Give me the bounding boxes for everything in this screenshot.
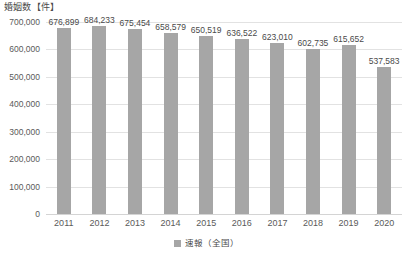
y-axis-tick-label: 300,000 <box>9 127 40 137</box>
bar-group: 636,522 <box>224 22 260 214</box>
gridline <box>46 214 402 215</box>
x-axis-tick-label: 2020 <box>374 217 394 229</box>
bar-group: 684,233 <box>82 22 118 214</box>
bar[interactable] <box>306 49 320 214</box>
bar-value-label: 623,010 <box>262 32 293 42</box>
bar-group: 675,454 <box>117 22 153 214</box>
bar[interactable] <box>377 67 391 214</box>
bar-group: 658,579 <box>153 22 189 214</box>
y-axis-tick-label: 200,000 <box>9 154 40 164</box>
x-axis: 2011201220132014201520162017201820192020 <box>46 217 402 231</box>
bar[interactable] <box>128 29 142 214</box>
x-axis-tick-label: 2011 <box>54 217 73 229</box>
legend-square-marker <box>174 240 181 247</box>
y-axis-tick-label: 600,000 <box>9 44 40 54</box>
bar-value-label: 650,519 <box>191 25 222 35</box>
x-axis-tick-label: 2012 <box>89 217 109 229</box>
bar[interactable] <box>164 33 178 214</box>
y-axis-tick-label: 0 <box>35 209 40 219</box>
x-axis-tick-label: 2018 <box>303 217 323 229</box>
x-axis-tick-label: 2017 <box>267 217 287 229</box>
bar-group: 650,519 <box>188 22 224 214</box>
x-axis-tick-label: 2016 <box>232 217 252 229</box>
y-axis-tick-label: 500,000 <box>9 72 40 82</box>
y-axis: 0100,000200,000300,000400,000500,000600,… <box>0 22 44 214</box>
y-axis-tick-label: 100,000 <box>9 182 40 192</box>
bar-group: 615,652 <box>331 22 367 214</box>
bar-value-label: 684,233 <box>84 15 115 25</box>
bar-group: 537,583 <box>366 22 402 214</box>
bar[interactable] <box>270 43 284 214</box>
bar[interactable] <box>92 26 106 214</box>
y-axis-tick-label: 700,000 <box>9 17 40 27</box>
bar-value-label: 676,899 <box>48 17 79 27</box>
bar[interactable] <box>235 39 249 214</box>
chart-title: 婚姻数【件】 <box>4 1 59 13</box>
legend-item-label: 速報（全国） <box>185 238 239 249</box>
bar-value-label: 615,652 <box>333 34 364 44</box>
bar-value-label: 658,579 <box>155 22 186 32</box>
chart-legend: 速報（全国） <box>0 236 412 250</box>
bar-value-label: 636,522 <box>226 28 257 38</box>
y-axis-tick-label: 400,000 <box>9 99 40 109</box>
x-axis-tick-label: 2019 <box>339 217 359 229</box>
plot-area: 676,899684,233675,454658,579650,519636,5… <box>46 22 402 214</box>
x-axis-tick-label: 2015 <box>196 217 216 229</box>
x-axis-tick-label: 2014 <box>161 217 181 229</box>
bar-value-label: 537,583 <box>369 56 400 66</box>
marriage-count-bar-chart: 婚姻数【件】 0100,000200,000300,000400,000500,… <box>0 0 412 253</box>
bar[interactable] <box>57 28 71 214</box>
bar[interactable] <box>342 45 356 214</box>
bar-group: 623,010 <box>260 22 296 214</box>
bar[interactable] <box>199 36 213 214</box>
x-axis-tick-label: 2013 <box>125 217 145 229</box>
bar-group: 676,899 <box>46 22 82 214</box>
bar-value-label: 675,454 <box>120 18 151 28</box>
bar-value-label: 602,735 <box>298 38 329 48</box>
bar-group: 602,735 <box>295 22 331 214</box>
